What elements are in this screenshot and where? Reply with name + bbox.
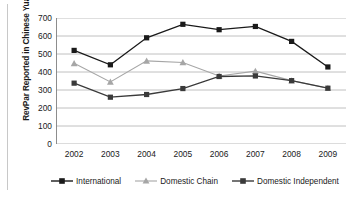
data-point-triangle-marker [107, 79, 114, 85]
data-point-square-marker [253, 73, 258, 78]
y-axis-tick-label: 400 [26, 68, 52, 76]
x-axis-tick-label: 2007 [235, 150, 275, 159]
data-point-square-marker [253, 24, 258, 29]
data-point-square-marker [108, 62, 113, 67]
x-axis-tick-label: 2008 [272, 150, 312, 159]
data-point-square-marker [144, 35, 149, 40]
y-axis-tick-label: 700 [26, 14, 52, 22]
data-point-triangle-marker [71, 60, 78, 66]
cropped-title-remnant [38, 0, 248, 7]
y-axis-tick-label: 500 [26, 50, 52, 58]
data-point-square-marker [180, 22, 185, 27]
x-axis-tick-label: 2003 [90, 150, 130, 159]
data-point-triangle-marker [252, 68, 259, 74]
filled-square-marker [51, 176, 73, 186]
legend-label: Domestic Chain [160, 177, 218, 186]
data-point-square-marker [144, 92, 149, 97]
data-point-square-marker [72, 81, 77, 86]
data-point-square-marker [108, 95, 113, 100]
y-axis-tick-label: 300 [26, 86, 52, 94]
data-point-square-marker [289, 78, 294, 83]
data-point-square-marker [325, 64, 330, 69]
x-axis-tick-label: 2002 [54, 150, 94, 159]
data-point-square-marker [217, 74, 222, 79]
x-axis-tick-label: 2006 [199, 150, 239, 159]
axis-lines [57, 18, 328, 144]
figure-left-border [7, 4, 8, 190]
y-axis-tick-label: 600 [26, 32, 52, 40]
series-line [74, 24, 328, 67]
legend-item-domestic-independent[interactable]: Domestic Independent [232, 176, 339, 186]
data-point-square-marker [325, 86, 330, 91]
legend-label: Domestic Independent [257, 177, 339, 186]
filled-triangle-marker [135, 176, 157, 186]
legend-label: International [76, 177, 121, 186]
x-axis-tick-label: 2009 [308, 150, 348, 159]
chart-canvas [56, 18, 346, 144]
y-axis-tick-label: 200 [26, 104, 52, 112]
filled-square-marker [232, 176, 254, 186]
data-point-square-marker [180, 86, 185, 91]
plot-area [56, 18, 346, 144]
gridlines [56, 18, 346, 144]
chart-figure: RevPar Reported in Chinese Yuan 70060050… [0, 0, 358, 200]
data-point-square-marker [289, 39, 294, 44]
series-international [72, 22, 331, 70]
legend-item-international[interactable]: International [51, 176, 121, 186]
data-point-square-marker [217, 27, 222, 32]
x-axis-tick-label: 2004 [127, 150, 167, 159]
chart-legend: InternationalDomestic ChainDomestic Inde… [40, 174, 350, 188]
legend-item-domestic-chain[interactable]: Domestic Chain [135, 176, 218, 186]
data-point-square-marker [72, 48, 77, 53]
series-layer [71, 22, 332, 100]
y-axis-tick-label: 0 [26, 140, 52, 148]
y-axis-tick-label: 100 [26, 122, 52, 130]
x-axis-tick-labels: 20022003200420052006200720082009 [56, 150, 346, 162]
y-axis-tick-labels: 7006005004003002001000 [22, 18, 52, 144]
x-axis-tick-label: 2005 [163, 150, 203, 159]
